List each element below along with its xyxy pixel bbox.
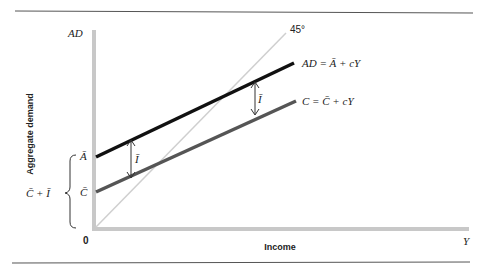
brace-label: C̄ + Ī [26, 187, 51, 199]
x-axis-symbol: Y [463, 235, 471, 247]
aggregate-demand-diagram: Ī Ī AD Aggregate demand Ā C̄ C̄ + Ī 0 In… [0, 0, 488, 268]
reference-45-line [96, 33, 286, 227]
c-line-label: C = C̄ + cY [302, 95, 355, 107]
consumption-line [96, 101, 296, 192]
bottom-rule [12, 262, 470, 263]
intercept-a-label: Ā [79, 150, 87, 162]
aggregate-demand-line [96, 63, 294, 157]
ad-line-label: AD = Ā + cY [301, 57, 362, 69]
y-axis-symbol: AD [67, 27, 83, 39]
angle-label: 45° [290, 24, 305, 35]
investment-gap-arrow-left [127, 140, 135, 178]
origin-label: 0 [83, 235, 89, 246]
brace-icon [65, 155, 76, 228]
top-rule [15, 11, 473, 13]
gap-label-left: Ī [134, 153, 140, 165]
y-axis-title: Aggregate demand [25, 93, 35, 175]
x-axis-title: Income [264, 242, 296, 252]
gap-label-right: Ī [257, 93, 263, 105]
intercept-c-label: C̄ [80, 186, 88, 198]
